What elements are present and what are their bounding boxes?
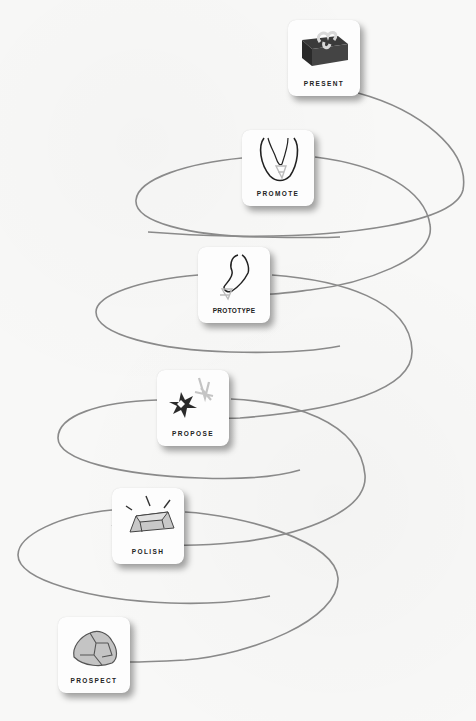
step-label: PROTOTYPE [198, 307, 270, 314]
spark-ring-icon [163, 374, 223, 426]
step-label: PROMOTE [242, 190, 314, 197]
step-label: PROPOSE [157, 430, 229, 437]
necklace-sketch-icon [204, 251, 264, 303]
gold-bar-icon [118, 492, 178, 544]
necklace-icon [248, 134, 308, 186]
step-card-prospect: PROSPECT [58, 617, 130, 693]
step-label: PROSPECT [58, 677, 130, 684]
step-card-promote: PROMOTE [242, 130, 314, 206]
gift-box-icon [294, 24, 354, 76]
step-card-polish: POLISH [112, 488, 184, 564]
step-label: PRESENT [288, 80, 360, 87]
step-card-prototype: PROTOTYPE [198, 247, 270, 323]
spiral-connector [0, 0, 476, 721]
step-card-propose: PROPOSE [157, 370, 229, 446]
rock-icon [64, 621, 124, 673]
step-card-present: PRESENT [288, 20, 360, 96]
step-label: POLISH [112, 548, 184, 555]
